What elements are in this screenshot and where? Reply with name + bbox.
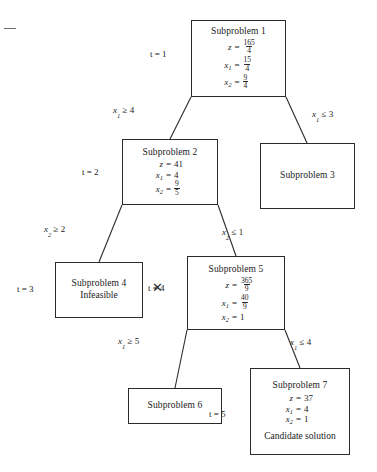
- equation-row: z = 3659: [214, 278, 258, 294]
- fraction-denominator: 9: [244, 284, 250, 293]
- fraction-numerator: 15: [243, 56, 253, 64]
- node-subproblem-7[interactable]: Subproblem 7 z = 37 x1 = 4 x2 = 1 Candid…: [250, 368, 350, 455]
- branch-label-x2-le-1: x2 ≤ 1: [222, 228, 243, 239]
- equation-row: x1 = 4: [278, 405, 322, 414]
- equation-row: x1 = 409: [214, 295, 258, 311]
- equation-rhs: 154: [243, 57, 261, 73]
- equation-lhs: x1: [278, 405, 293, 414]
- node-subproblem-6[interactable]: Subproblem 6: [128, 388, 222, 424]
- equation-operator: =: [293, 394, 304, 403]
- branch-label-x2-ge-2: x2 ≥ 2: [44, 225, 65, 236]
- equation-rhs: 37: [304, 394, 322, 403]
- fraction: 409: [240, 294, 250, 310]
- equation-lhs: x2: [148, 185, 163, 194]
- node-subproblem-1[interactable]: Subproblem 1 z = 1654 x1 = 154 x2 = 94: [191, 20, 286, 97]
- equation-operator: =: [229, 313, 240, 322]
- edge-sp1-sp3: [286, 97, 307, 143]
- equation-row: x1 = 154: [217, 57, 261, 73]
- fraction-denominator: 5: [174, 188, 180, 197]
- node-title: Subproblem 3: [280, 170, 335, 182]
- node-title: Subproblem 4: [72, 278, 127, 290]
- fraction-denominator: 4: [243, 81, 249, 90]
- fraction: 94: [243, 74, 249, 90]
- equation-lhs: x2: [214, 313, 229, 322]
- equation-lhs: z: [148, 160, 163, 169]
- node-subproblem-2[interactable]: Subproblem 2 z = 41 x1 = 4 x2 = 95: [122, 139, 218, 205]
- equation-lhs: z: [217, 43, 232, 52]
- node-equations: z = 41 x1 = 4 x2 = 95: [148, 160, 192, 197]
- equation-lhs: z: [278, 394, 293, 403]
- equation-lhs: z: [214, 281, 229, 290]
- node-title: Subproblem 2: [143, 147, 198, 159]
- node-equations: z = 37 x1 = 4 x2 = 1: [278, 394, 322, 424]
- fraction-numerator: 365: [240, 277, 253, 285]
- equation-operator: =: [163, 160, 174, 169]
- equation-row: x2 = 95: [148, 181, 192, 197]
- equation-lhs: x2: [217, 78, 232, 87]
- fraction-denominator: 4: [246, 46, 252, 55]
- equation-row: z = 41: [148, 160, 192, 169]
- fraction-numerator: 9: [243, 74, 249, 82]
- fraction: 3659: [240, 277, 253, 293]
- node-subproblem-5[interactable]: Subproblem 5 z = 3659 x1 = 409 x2 = 1: [187, 256, 285, 330]
- stage-label-t3: t = 3: [17, 285, 34, 294]
- branch-label-x1-le-3: x1 ≤ 3: [312, 110, 333, 121]
- equation-row: x2 = 1: [214, 313, 258, 322]
- equation-row: x2 = 94: [217, 75, 261, 91]
- stage-label-t5: t = 5: [209, 410, 226, 419]
- equation-rhs: 1654: [243, 40, 261, 56]
- branch-and-bound-figure: Subproblem 1 z = 1654 x1 = 154 x2 = 94 t…: [0, 0, 377, 472]
- equation-operator: =: [229, 299, 240, 308]
- equation-lhs: x2: [278, 415, 293, 424]
- node-status-note: Infeasible: [80, 290, 117, 302]
- fraction-numerator: 9: [174, 180, 180, 188]
- equation-rhs: 41: [174, 160, 192, 169]
- fraction: 154: [243, 56, 253, 72]
- stage-label-t1: t = 1: [150, 50, 167, 59]
- stage-label-t2: t = 2: [82, 168, 99, 177]
- branch-label-x1-ge-4: x1 ≥ 4: [113, 106, 134, 117]
- fraction: 1654: [243, 39, 256, 55]
- node-equations: z = 3659 x1 = 409 x2 = 1: [214, 278, 258, 322]
- equation-rhs: 1: [304, 415, 322, 424]
- node-title: Subproblem 7: [273, 380, 328, 392]
- equation-operator: =: [232, 43, 243, 52]
- equation-rhs: 409: [240, 295, 258, 311]
- equation-rhs: 4: [304, 405, 322, 414]
- node-subproblem-3[interactable]: Subproblem 3: [260, 143, 355, 209]
- fraction-numerator: 40: [240, 294, 250, 302]
- fraction: 95: [174, 180, 180, 196]
- stage-label-t4: t = 4: [148, 284, 165, 293]
- equation-operator: =: [293, 415, 304, 424]
- node-title: Subproblem 5: [209, 264, 264, 276]
- branch-label-x1-le-4: x1 ≤ 4: [290, 338, 311, 349]
- equation-row: z = 37: [278, 394, 322, 403]
- equation-rhs: 94: [243, 75, 261, 91]
- node-equations: z = 1654 x1 = 154 x2 = 94: [217, 40, 261, 91]
- node-title: Subproblem 6: [148, 400, 203, 412]
- edge-sp2-sp4: [99, 205, 122, 262]
- equation-operator: =: [163, 171, 174, 180]
- equation-operator: =: [232, 61, 243, 70]
- fraction-denominator: 4: [244, 64, 250, 73]
- branch-label-x1-ge-5: x1 ≥ 5: [118, 337, 139, 348]
- fraction-denominator: 9: [242, 302, 248, 311]
- equation-operator: =: [163, 185, 174, 194]
- equation-rhs: 1: [240, 313, 258, 322]
- node-status-note: Candidate solution: [264, 431, 336, 443]
- equation-operator: =: [229, 281, 240, 290]
- equation-row: z = 1654: [217, 40, 261, 56]
- equation-row: x1 = 4: [148, 171, 192, 180]
- edge-sp5-sp6: [175, 330, 187, 388]
- equation-lhs: x1: [217, 61, 232, 70]
- node-title: Subproblem 1: [211, 26, 266, 38]
- node-subproblem-4[interactable]: Subproblem 4 Infeasible: [55, 262, 143, 318]
- equation-rhs: 3659: [240, 278, 258, 294]
- equation-operator: =: [232, 78, 243, 87]
- fraction-numerator: 165: [243, 39, 256, 47]
- equation-operator: =: [293, 405, 304, 414]
- edge-sp1-sp2: [170, 97, 191, 139]
- equation-row: x2 = 1: [278, 415, 322, 424]
- equation-lhs: x1: [214, 299, 229, 308]
- equation-lhs: x1: [148, 171, 163, 180]
